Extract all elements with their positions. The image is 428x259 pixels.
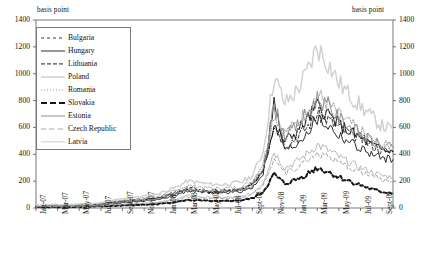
legend-item-label: Czech Republic — [68, 124, 116, 133]
y-tick-label-right: 0 — [399, 203, 425, 212]
legend-item-label: Hungary — [68, 46, 95, 55]
x-tick-label: May-09 — [342, 191, 351, 214]
y-tick-label-right: 600 — [399, 122, 425, 131]
x-tick-label: Jul-07 — [104, 196, 113, 214]
x-tick-label: Jan-08 — [169, 195, 178, 214]
x-tick-label: Mar-08 — [190, 192, 199, 214]
y-tick-label-left: 800 — [4, 96, 30, 105]
x-tick-label: Sept-07 — [126, 191, 135, 214]
legend-item-label: Poland — [68, 72, 89, 81]
chart-legend: BulgariaHungaryLithuaniaPolandRomaniaSlo… — [36, 27, 131, 150]
x-tick-label: Jul-09 — [364, 196, 373, 214]
y-tick-label-left: 1000 — [4, 69, 30, 78]
y-tick-label-right: 1200 — [399, 42, 425, 51]
x-tick-label: May-07 — [82, 191, 91, 214]
y-tick-label-right: 200 — [399, 176, 425, 185]
y-tick-label-left: 200 — [4, 176, 30, 185]
y-tick-label-right: 800 — [399, 96, 425, 105]
legend-item-label: Bulgaria — [68, 33, 94, 42]
legend-line-swatch-icon — [41, 98, 65, 107]
y-tick-label-left: 400 — [4, 149, 30, 158]
legend-item-poland[interactable]: Poland — [37, 70, 130, 83]
legend-item-label: Lithuania — [68, 59, 97, 68]
x-tick-label: Sept-08 — [255, 191, 264, 214]
legend-line-swatch-icon — [41, 137, 65, 146]
x-tick-label: Nov-07 — [147, 192, 156, 214]
legend-line-swatch-icon — [41, 46, 65, 55]
chart-container: basis point basis point 1400120010008006… — [0, 0, 428, 259]
legend-line-swatch-icon — [41, 72, 65, 81]
legend-item-label: Romania — [68, 85, 95, 94]
x-tick-label: Sept-09 — [385, 191, 394, 214]
legend-line-swatch-icon — [41, 33, 65, 42]
x-tick-label: May-08 — [212, 191, 221, 214]
legend-item-hungary[interactable]: Hungary — [37, 44, 130, 57]
legend-item-bulgaria[interactable]: Bulgaria — [37, 31, 130, 44]
legend-item-slovakia[interactable]: Slovakia — [37, 96, 130, 109]
legend-item-lithuania[interactable]: Lithuania — [37, 57, 130, 70]
legend-item-label: Estonia — [68, 111, 91, 120]
x-tick-label: Jul-08 — [234, 196, 243, 214]
y-tick-label-right: 1000 — [399, 69, 425, 78]
legend-item-label: Latvia — [68, 137, 87, 146]
x-tick-label: Mar-09 — [320, 192, 329, 214]
y-tick-label-left: 1200 — [4, 42, 30, 51]
y-tick-label-left: 1400 — [4, 15, 30, 24]
y-tick-label-right: 1400 — [399, 15, 425, 24]
legend-item-czech-republic[interactable]: Czech Republic — [37, 122, 130, 135]
legend-item-label: Slovakia — [68, 98, 95, 107]
x-tick-label: Jan-07 — [39, 195, 48, 214]
legend-line-swatch-icon — [41, 59, 65, 68]
legend-item-estonia[interactable]: Estonia — [37, 109, 130, 122]
x-tick-label: Jan-09 — [299, 195, 308, 214]
y-tick-label-left: 0 — [4, 203, 30, 212]
legend-line-swatch-icon — [41, 85, 65, 94]
y-tick-label-left: 600 — [4, 122, 30, 131]
legend-line-swatch-icon — [41, 111, 65, 120]
legend-item-romania[interactable]: Romania — [37, 83, 130, 96]
x-tick-label: Mar-07 — [61, 192, 70, 214]
legend-item-latvia[interactable]: Latvia — [37, 135, 130, 148]
y-tick-label-right: 400 — [399, 149, 425, 158]
legend-line-swatch-icon — [41, 124, 65, 133]
x-tick-label: Nov-08 — [277, 192, 286, 214]
